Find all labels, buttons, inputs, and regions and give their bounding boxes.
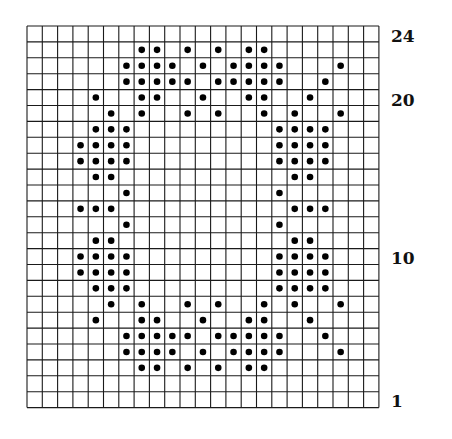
pattern-dot	[215, 301, 222, 308]
pattern-dot	[337, 349, 344, 356]
pattern-dot	[138, 317, 145, 324]
pattern-dot	[108, 253, 115, 260]
pattern-dot	[261, 47, 268, 54]
pattern-dot	[138, 301, 145, 308]
pattern-dot	[291, 285, 298, 292]
pattern-dot	[291, 301, 298, 308]
pattern-dot	[276, 333, 283, 340]
pattern-dot	[123, 349, 130, 356]
pattern-dot	[169, 349, 176, 356]
pattern-dot	[77, 158, 84, 165]
pattern-dot	[291, 174, 298, 181]
pattern-dot	[108, 206, 115, 213]
pattern-dot	[261, 301, 268, 308]
pattern-dot	[230, 62, 237, 69]
pattern-dot	[307, 253, 314, 260]
pattern-dot	[184, 78, 191, 85]
pattern-dot	[307, 174, 314, 181]
row-label-20: 20	[391, 92, 415, 109]
pattern-dot	[93, 126, 100, 133]
pattern-dot	[307, 158, 314, 165]
pattern-dot	[108, 269, 115, 276]
pattern-dot	[77, 269, 84, 276]
pattern-dot	[291, 158, 298, 165]
pattern-dot	[307, 285, 314, 292]
pattern-dot	[200, 94, 207, 101]
pattern-dot	[291, 110, 298, 117]
pattern-dot	[215, 110, 222, 117]
pattern-dot	[200, 349, 207, 356]
pattern-dot	[138, 47, 145, 54]
pattern-dot	[322, 126, 329, 133]
pattern-dot	[215, 333, 222, 340]
pattern-dot	[322, 142, 329, 149]
pattern-dot	[154, 349, 161, 356]
pattern-dot	[93, 158, 100, 165]
pattern-dot	[108, 237, 115, 244]
pattern-dot	[276, 221, 283, 228]
pattern-dot	[138, 94, 145, 101]
pattern-dot	[93, 285, 100, 292]
pattern-dot	[246, 349, 253, 356]
pattern-dot	[276, 62, 283, 69]
pattern-dot	[108, 126, 115, 133]
pattern-dot	[169, 333, 176, 340]
pattern-dot	[138, 333, 145, 340]
pattern-dot	[307, 317, 314, 324]
pattern-dot	[169, 78, 176, 85]
pattern-dot	[93, 142, 100, 149]
pattern-dot	[261, 94, 268, 101]
pattern-dot	[108, 174, 115, 181]
pattern-dot	[337, 62, 344, 69]
pattern-dot	[276, 158, 283, 165]
pattern-dot	[154, 317, 161, 324]
pattern-dot	[138, 78, 145, 85]
pattern-dot	[246, 47, 253, 54]
pattern-dot	[138, 365, 145, 372]
pattern-dot	[322, 78, 329, 85]
pattern-dot	[261, 317, 268, 324]
pattern-dot	[261, 333, 268, 340]
pattern-dot	[184, 110, 191, 117]
pattern-dot	[215, 78, 222, 85]
pattern-dot	[123, 253, 130, 260]
pattern-dot	[230, 78, 237, 85]
pattern-dot	[230, 349, 237, 356]
pattern-dot	[291, 142, 298, 149]
pattern-dot	[93, 237, 100, 244]
pattern-dot	[108, 110, 115, 117]
pattern-dot	[322, 253, 329, 260]
pattern-dot	[200, 62, 207, 69]
pattern-dot	[230, 333, 237, 340]
pattern-dot	[93, 253, 100, 260]
pattern-dot	[154, 365, 161, 372]
pattern-dot	[291, 126, 298, 133]
pattern-dot	[307, 142, 314, 149]
row-label-24: 24	[391, 28, 415, 45]
pattern-dot	[108, 158, 115, 165]
pattern-dot	[138, 349, 145, 356]
pattern-dot	[123, 333, 130, 340]
pattern-dot	[77, 206, 84, 213]
pattern-dot	[291, 269, 298, 276]
pattern-dot	[184, 47, 191, 54]
pattern-dot	[337, 301, 344, 308]
pattern-dot	[184, 301, 191, 308]
pattern-dot	[261, 365, 268, 372]
pattern-dot	[291, 253, 298, 260]
pattern-dot	[184, 365, 191, 372]
pattern-dot	[276, 126, 283, 133]
pattern-dot	[291, 206, 298, 213]
pattern-dot	[276, 78, 283, 85]
pattern-dot	[93, 317, 100, 324]
pattern-dot	[276, 190, 283, 197]
pattern-dot	[246, 365, 253, 372]
pattern-dot	[93, 94, 100, 101]
pattern-dot	[123, 158, 130, 165]
pattern-dot	[307, 126, 314, 133]
pattern-dot	[108, 301, 115, 308]
pattern-dot	[93, 269, 100, 276]
pattern-dot	[307, 94, 314, 101]
pattern-dot	[123, 285, 130, 292]
pattern-dot	[169, 62, 176, 69]
